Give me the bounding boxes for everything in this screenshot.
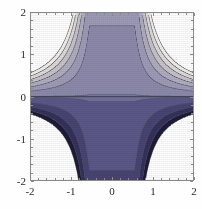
y-tick-label: 2 (6, 7, 26, 18)
minor-tick-bot (145, 178, 146, 180)
contour-field (31, 13, 193, 180)
major-tick-rgt (190, 54, 193, 55)
minor-tick-top (120, 13, 121, 15)
minor-tick-top (38, 13, 39, 15)
minor-tick-rgt (191, 156, 193, 157)
minor-tick-rgt (191, 29, 193, 30)
y-tick-label: 0 (6, 91, 26, 102)
minor-tick-bot (120, 178, 121, 180)
major-tick-top (71, 13, 72, 16)
major-tick-bot (71, 177, 72, 180)
minor-tick-rgt (191, 88, 193, 89)
minor-tick-top (145, 13, 146, 15)
x-tick-label: -1 (66, 186, 75, 197)
minor-tick-rgt (191, 130, 193, 131)
major-tick-rgt (190, 139, 193, 140)
major-tick-bot (153, 177, 154, 180)
major-tick-bot (194, 177, 195, 180)
minor-tick-rgt (191, 173, 193, 174)
minor-tick-lft (31, 122, 33, 123)
x-tick-label: 0 (109, 186, 115, 197)
plot-frame (30, 12, 194, 181)
minor-tick-top (137, 13, 138, 15)
major-tick-top (30, 13, 31, 16)
minor-tick-lft (31, 147, 33, 148)
major-tick-bot (112, 177, 113, 180)
minor-tick-lft (31, 20, 33, 21)
minor-tick-top (104, 13, 105, 15)
minor-tick-bot (87, 178, 88, 180)
minor-tick-rgt (191, 113, 193, 114)
minor-tick-lft (31, 29, 33, 30)
x-tick-label: 1 (150, 186, 156, 197)
minor-tick-top (128, 13, 129, 15)
contour-plot-figure: -2-1012 -2-1012 (0, 0, 202, 209)
minor-tick-bot (79, 178, 80, 180)
minor-tick-top (63, 13, 64, 15)
x-tick-label: 2 (191, 186, 197, 197)
minor-tick-top (87, 13, 88, 15)
minor-tick-rgt (191, 46, 193, 47)
minor-tick-rgt (191, 122, 193, 123)
minor-tick-top (169, 13, 170, 15)
minor-tick-rgt (191, 63, 193, 64)
major-tick-lft (31, 181, 34, 182)
minor-tick-bot (186, 178, 187, 180)
y-tick-label: -2 (6, 176, 26, 187)
minor-tick-lft (31, 113, 33, 114)
major-tick-top (112, 13, 113, 16)
minor-tick-lft (31, 63, 33, 64)
major-tick-top (194, 13, 195, 16)
major-tick-lft (31, 54, 34, 55)
major-tick-lft (31, 12, 34, 13)
minor-tick-top (55, 13, 56, 15)
minor-tick-top (178, 13, 179, 15)
minor-tick-rgt (191, 37, 193, 38)
x-tick-label: -2 (25, 186, 34, 197)
minor-tick-lft (31, 46, 33, 47)
minor-tick-lft (31, 164, 33, 165)
major-tick-top (153, 13, 154, 16)
minor-tick-bot (128, 178, 129, 180)
minor-tick-rgt (191, 71, 193, 72)
minor-tick-rgt (191, 80, 193, 81)
minor-tick-bot (38, 178, 39, 180)
minor-tick-lft (31, 80, 33, 81)
minor-tick-lft (31, 105, 33, 106)
minor-tick-top (96, 13, 97, 15)
minor-tick-bot (178, 178, 179, 180)
minor-tick-bot (161, 178, 162, 180)
minor-tick-top (186, 13, 187, 15)
minor-tick-rgt (191, 20, 193, 21)
minor-tick-rgt (191, 147, 193, 148)
minor-tick-bot (169, 178, 170, 180)
minor-tick-lft (31, 71, 33, 72)
major-tick-lft (31, 97, 34, 98)
minor-tick-bot (137, 178, 138, 180)
minor-tick-bot (63, 178, 64, 180)
major-tick-rgt (190, 12, 193, 13)
minor-tick-rgt (191, 105, 193, 106)
minor-tick-bot (55, 178, 56, 180)
minor-tick-bot (104, 178, 105, 180)
minor-tick-lft (31, 88, 33, 89)
minor-tick-bot (96, 178, 97, 180)
y-tick-label: 1 (6, 49, 26, 60)
minor-tick-lft (31, 156, 33, 157)
minor-tick-top (79, 13, 80, 15)
minor-tick-top (46, 13, 47, 15)
major-tick-bot (30, 177, 31, 180)
minor-tick-top (161, 13, 162, 15)
minor-tick-lft (31, 173, 33, 174)
minor-tick-lft (31, 130, 33, 131)
minor-tick-rgt (191, 164, 193, 165)
major-tick-rgt (190, 181, 193, 182)
y-tick-label: -1 (6, 133, 26, 144)
major-tick-lft (31, 139, 34, 140)
minor-tick-bot (46, 178, 47, 180)
major-tick-rgt (190, 97, 193, 98)
minor-tick-lft (31, 37, 33, 38)
